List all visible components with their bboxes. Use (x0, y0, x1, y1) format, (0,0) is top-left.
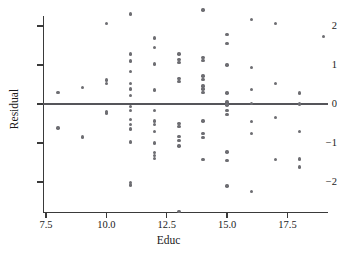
y-tick-mark (37, 142, 43, 143)
data-point (274, 158, 277, 161)
x-tick-mark (106, 212, 107, 218)
data-point (177, 80, 180, 83)
data-point (225, 113, 228, 116)
data-point (298, 157, 301, 160)
data-point (153, 157, 156, 160)
data-point (153, 88, 156, 91)
data-point (56, 126, 59, 129)
data-point (81, 86, 84, 89)
y-tick-mark (37, 25, 43, 26)
data-point (153, 141, 156, 144)
data-point (153, 123, 156, 126)
data-point (129, 82, 132, 85)
data-point (177, 52, 180, 55)
data-point (250, 66, 253, 69)
data-point (129, 52, 132, 55)
y-tick-mark (37, 64, 43, 65)
data-point (322, 35, 325, 38)
data-point (201, 78, 204, 81)
y-tick-mark (37, 103, 43, 104)
data-point (274, 116, 277, 119)
data-point (129, 140, 132, 143)
data-point (105, 82, 108, 85)
data-point (129, 12, 132, 15)
residual-scatter-plot: 210−1−2 7.510.012.515.017.5 Educ Residua… (0, 0, 337, 255)
data-point (250, 132, 253, 135)
data-point (105, 22, 108, 25)
data-point (225, 63, 228, 66)
plot-area: 210−1−2 7.510.012.515.017.5 (0, 0, 337, 255)
y-tick-label: −1 (304, 138, 337, 149)
data-point (250, 190, 253, 193)
data-point (81, 135, 84, 138)
data-point (225, 42, 228, 45)
data-point (298, 102, 301, 105)
data-point (153, 36, 156, 39)
data-point (201, 132, 204, 135)
data-point (177, 210, 180, 213)
data-point (225, 91, 228, 94)
data-point (129, 94, 132, 97)
data-point (250, 120, 253, 123)
y-tick-label: 2 (304, 21, 337, 32)
data-point (201, 59, 204, 62)
data-point (129, 59, 132, 62)
data-point (225, 184, 228, 187)
data-point (298, 165, 301, 168)
data-point (225, 159, 228, 162)
data-point (153, 46, 156, 49)
data-point (153, 62, 156, 65)
data-point (298, 130, 301, 133)
data-point (250, 18, 253, 21)
data-point (250, 102, 253, 105)
data-point (177, 125, 180, 128)
x-tick-label: 7.5 (26, 220, 66, 231)
data-point (177, 139, 180, 142)
x-tick-label: 10.0 (86, 220, 126, 231)
y-tick-label: 0 (304, 99, 337, 110)
y-axis-spine (43, 16, 44, 213)
zero-reference-line (43, 103, 328, 105)
data-point (153, 130, 156, 133)
data-point (201, 8, 204, 11)
data-point (177, 144, 180, 147)
data-point (225, 109, 228, 112)
data-point (129, 183, 132, 186)
data-point (250, 88, 253, 91)
data-point (129, 123, 132, 126)
x-tick-label: 15.0 (207, 220, 247, 231)
data-point (177, 135, 180, 138)
x-tick-mark (287, 212, 288, 218)
x-tick-label: 12.5 (147, 220, 187, 231)
x-tick-mark (166, 212, 167, 218)
x-tick-label: 17.5 (268, 220, 308, 231)
data-point (225, 150, 228, 153)
data-point (298, 91, 301, 94)
data-point (129, 87, 132, 90)
data-point (129, 127, 132, 130)
x-axis-spine (43, 212, 328, 213)
data-point (201, 158, 204, 161)
data-point (105, 111, 108, 114)
data-point (201, 91, 204, 94)
data-point (129, 118, 132, 121)
data-point (129, 109, 132, 112)
data-point (177, 61, 180, 64)
data-point (105, 78, 108, 81)
y-axis-label: Residual (8, 69, 20, 149)
data-point (201, 119, 204, 122)
x-tick-mark (45, 212, 46, 218)
x-tick-mark (226, 212, 227, 218)
data-point (274, 82, 277, 85)
data-point (56, 91, 59, 94)
data-point (129, 70, 132, 73)
data-point (225, 33, 228, 36)
y-tick-label: −2 (304, 177, 337, 188)
data-point (153, 109, 156, 112)
data-point (129, 105, 132, 108)
data-point (201, 136, 204, 139)
data-point (274, 22, 277, 25)
y-tick-label: 1 (304, 60, 337, 71)
y-tick-mark (37, 181, 43, 182)
data-point (225, 103, 228, 106)
